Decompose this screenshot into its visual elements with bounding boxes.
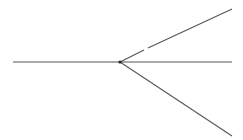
upper-ray-outer [148,9,232,48]
rays-diagram [0,0,243,140]
vertex-point [118,60,121,63]
diagram-canvas [0,0,243,140]
upper-ray-inner [120,50,144,62]
lower-ray [120,62,232,136]
